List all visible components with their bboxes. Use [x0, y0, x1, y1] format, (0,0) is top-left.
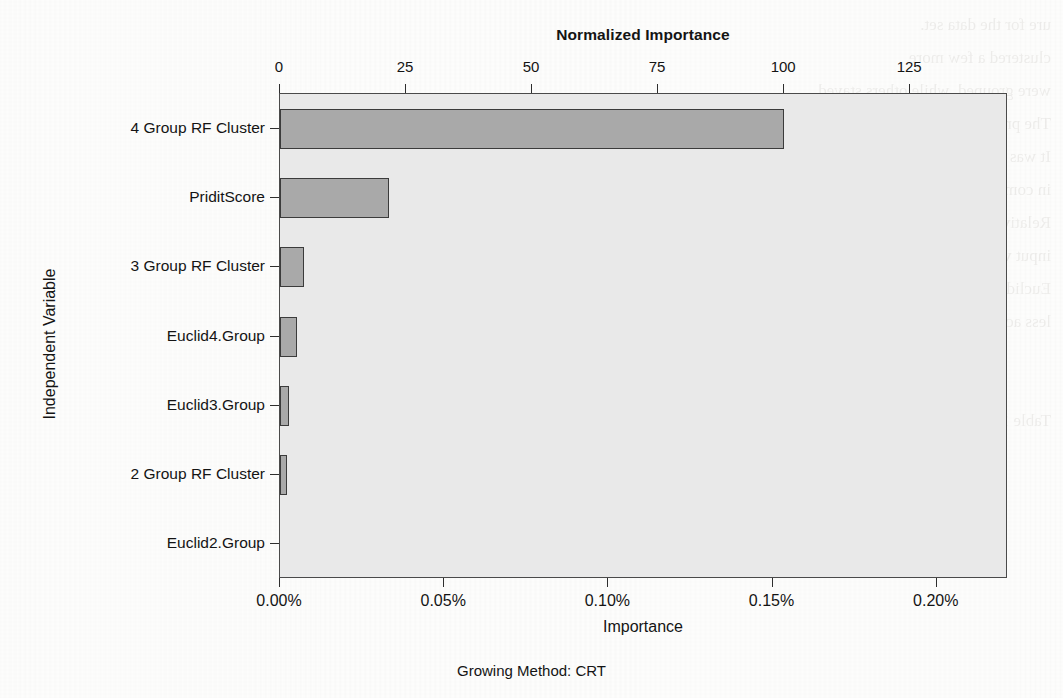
- bar: [280, 386, 289, 426]
- x-axis-title: Importance: [279, 618, 1007, 636]
- top-axis-tick-label: 100: [771, 58, 796, 75]
- y-axis-tick: [270, 266, 279, 267]
- y-axis-tick-label: PriditScore: [189, 188, 265, 206]
- y-axis-tick-label: 4 Group RF Cluster: [131, 119, 265, 137]
- y-axis-tick-label: 2 Group RF Cluster: [131, 465, 265, 483]
- top-axis-title: Normalized Importance: [279, 26, 1007, 44]
- y-axis-tick-label: 3 Group RF Cluster: [131, 257, 265, 275]
- plot-area: [279, 93, 1007, 578]
- top-axis-tick-label: 125: [897, 58, 922, 75]
- y-axis-tick: [270, 405, 279, 406]
- bar: [280, 109, 784, 149]
- y-axis-title: Independent Variable: [41, 179, 59, 509]
- y-axis-tick: [270, 197, 279, 198]
- y-axis-tick: [270, 543, 279, 544]
- y-axis-tick: [270, 336, 279, 337]
- y-axis-tick: [270, 128, 279, 129]
- top-axis-tick: [657, 84, 658, 93]
- bottom-axis-tick-label: 0.20%: [913, 592, 958, 610]
- bar: [280, 317, 297, 357]
- bottom-axis-tick-label: 0.10%: [585, 592, 630, 610]
- top-axis-tick: [531, 84, 532, 93]
- bottom-axis-tick: [443, 578, 444, 587]
- bar: [280, 178, 389, 218]
- bar: [280, 247, 304, 287]
- top-axis-tick: [279, 84, 280, 93]
- bottom-axis-tick: [279, 578, 280, 587]
- bottom-axis-tick-label: 0.00%: [256, 592, 301, 610]
- growing-method-note: Growing Method: CRT: [0, 662, 1063, 679]
- top-axis-tick-label: 50: [523, 58, 540, 75]
- bottom-axis-tick-label: 0.15%: [749, 592, 794, 610]
- top-axis-tick-label: 25: [397, 58, 414, 75]
- y-axis-tick-label: Euclid3.Group: [167, 396, 265, 414]
- top-axis-tick: [405, 84, 406, 93]
- chart-page: ure for the data set. clustered a few mo…: [0, 0, 1063, 698]
- top-axis-tick: [783, 84, 784, 93]
- y-axis-tick-label: Euclid2.Group: [167, 534, 265, 552]
- y-axis-tick-label: Euclid4.Group: [167, 327, 265, 345]
- top-axis-tick-label: 0: [275, 58, 283, 75]
- bottom-axis-tick: [936, 578, 937, 587]
- bottom-axis-tick: [607, 578, 608, 587]
- y-axis-tick: [270, 474, 279, 475]
- top-axis-tick-label: 75: [649, 58, 666, 75]
- bottom-axis-tick: [772, 578, 773, 587]
- bottom-axis-tick-label: 0.05%: [420, 592, 465, 610]
- bar: [280, 455, 287, 495]
- top-axis-tick: [909, 84, 910, 93]
